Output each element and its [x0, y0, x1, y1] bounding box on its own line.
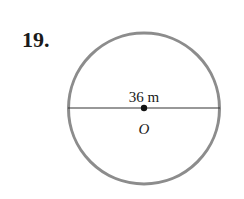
problem-figure-page: 19. 36 m O	[0, 0, 244, 199]
center-point	[141, 105, 147, 111]
center-label: O	[139, 121, 150, 137]
diameter-label: 36 m	[129, 89, 160, 105]
circle-figure: 36 m O	[0, 0, 244, 199]
